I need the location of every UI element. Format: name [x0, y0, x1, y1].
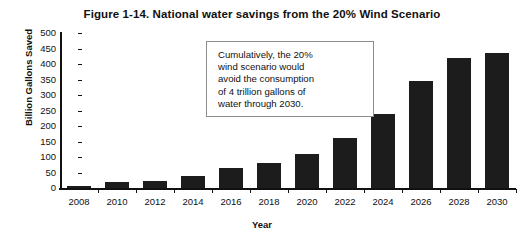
bar-2030	[485, 53, 509, 188]
x-axis-label: Year	[0, 219, 524, 230]
y-axis-tick-label: 250	[22, 106, 56, 116]
x-axis-tick-mark	[326, 189, 327, 193]
bar-2010	[105, 182, 129, 188]
y-axis-tick-label: 0	[22, 183, 56, 193]
figure-container: Figure 1-14. National water savings from…	[0, 0, 524, 239]
x-axis-tick-mark	[440, 189, 441, 193]
x-axis-tick-mark	[402, 189, 403, 193]
y-axis-tick-label: 450	[22, 44, 56, 54]
x-axis-tick-label: 2022	[334, 196, 355, 207]
bar-2014	[181, 176, 205, 188]
bar-2012	[143, 181, 167, 188]
y-axis-tick-label: 300	[22, 90, 56, 100]
x-axis-tick-mark	[136, 189, 137, 193]
x-axis-tick-label: 2008	[68, 196, 89, 207]
bar-2024	[371, 114, 395, 188]
x-axis-tick-label: 2010	[106, 196, 127, 207]
annotation-line: of 4 trillion gallons of	[218, 86, 364, 98]
x-axis-tick-label: 2020	[296, 196, 317, 207]
x-axis-tick-mark	[98, 189, 99, 193]
x-axis-tick-label: 2018	[258, 196, 279, 207]
annotation-line: water through 2030.	[218, 98, 364, 110]
y-axis-tick-label: 50	[22, 168, 56, 178]
chart-title: Figure 1-14. National water savings from…	[0, 8, 524, 20]
x-axis-tick-label: 2014	[182, 196, 203, 207]
y-axis-tick-label: 200	[22, 121, 56, 131]
x-axis-tick-mark	[364, 189, 365, 193]
annotation-line: wind scenario would	[218, 61, 364, 73]
bar-2008	[67, 186, 91, 188]
bar-2022	[333, 138, 357, 188]
x-axis-tick-label: 2030	[486, 196, 507, 207]
x-axis-tick-mark	[478, 189, 479, 193]
bar-2028	[447, 58, 471, 188]
x-axis-tick-mark	[516, 189, 517, 193]
bar-2026	[409, 81, 433, 188]
annotation-callout: Cumulatively, the 20%wind scenario would…	[206, 41, 374, 117]
y-axis-tick-label: 150	[22, 137, 56, 147]
x-axis-tick-mark	[212, 189, 213, 193]
y-axis-tick-label: 400	[22, 59, 56, 69]
y-axis-tick-label: 100	[22, 152, 56, 162]
bar-2018	[257, 163, 281, 188]
x-axis-tick-label: 2024	[372, 196, 393, 207]
x-axis-tick-mark	[174, 189, 175, 193]
x-axis-tick-mark	[250, 189, 251, 193]
x-axis-tick-label: 2016	[220, 196, 241, 207]
annotation-line: Cumulatively, the 20%	[218, 49, 364, 61]
x-axis-tick-label: 2012	[144, 196, 165, 207]
x-axis-tick-label: 2028	[448, 196, 469, 207]
bar-2020	[295, 154, 319, 188]
annotation-line: avoid the consumption	[218, 73, 364, 85]
x-axis-tick-mark	[288, 189, 289, 193]
x-axis-tick-label: 2026	[410, 196, 431, 207]
bar-2016	[219, 168, 243, 188]
y-axis-tick-label: 500	[22, 28, 56, 38]
y-axis-tick-label: 350	[22, 75, 56, 85]
